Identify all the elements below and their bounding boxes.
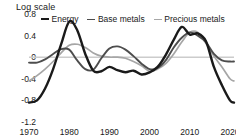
series-line-energy [29, 21, 234, 103]
plot-area [0, 0, 236, 140]
chart-container: Log scale Energy Base metals Precious me… [0, 0, 236, 140]
